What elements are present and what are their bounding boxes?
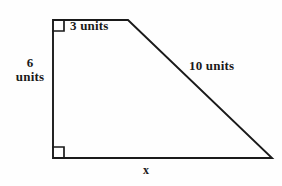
right-angle-marker-top-left [53, 20, 64, 31]
side-label-bottom-unknown: x [143, 164, 149, 176]
geometry-figure: 3 units 6 units 10 units x [0, 0, 282, 186]
right-angle-marker-bottom-left [53, 147, 64, 158]
side-label-left-value: 6 [9, 56, 51, 70]
side-label-hypotenuse: 10 units [189, 59, 234, 72]
side-label-left: 6 units [9, 56, 51, 84]
trapezoid-drawing [0, 0, 282, 186]
side-label-top: 3 units [70, 19, 109, 32]
side-label-left-unit: units [9, 70, 51, 84]
trapezoid-outline [53, 20, 272, 158]
